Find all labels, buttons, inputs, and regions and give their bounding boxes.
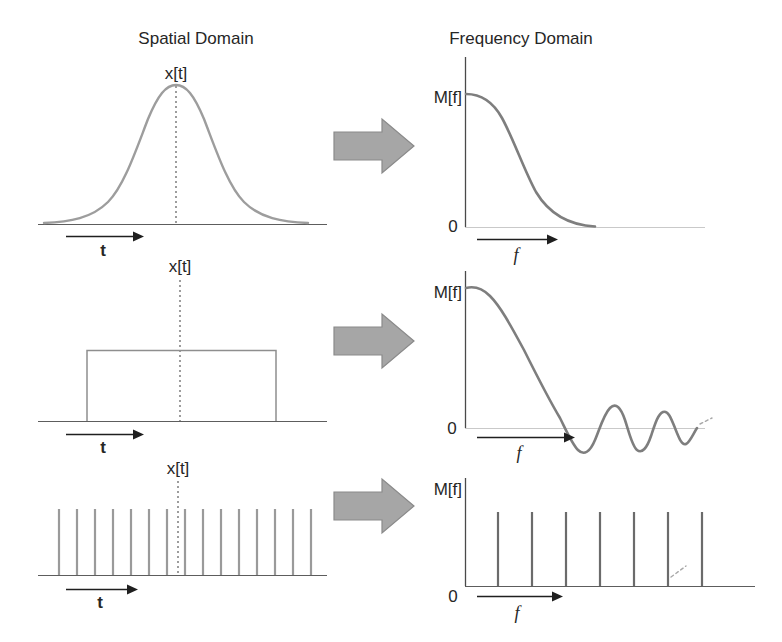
row3-continuation-hint [671,566,686,577]
row2-rect-pulse [87,351,276,422]
row-impulse-frequency-panel: M[f] 0 f [434,478,755,623]
row1-zero-label: 0 [448,217,457,236]
row3-impulse-train [59,509,311,575]
right-arrow-icon [334,479,414,533]
row3-f-label: f [514,603,522,623]
row-impulse-spatial-panel: x[t] t [38,459,327,612]
row2-f-label: f [516,443,524,463]
row2-signal-label: x[t] [169,257,192,276]
row1-t-label: t [100,241,106,260]
row3-t-arrow-head [127,585,138,595]
row2-t-arrow-head [133,430,144,440]
row1-magnitude-label: M[f] [434,88,462,107]
row2-f-arrow-head [564,433,575,443]
row3-signal-label: x[t] [167,459,190,478]
right-arrow-icon [334,314,414,368]
row3-impulse-train-spectrum [498,512,702,586]
row2-t-label: t [100,438,106,457]
fourier-pairs-figure: Spatial Domain Frequency Domain x[t] t M… [0,0,782,642]
row3-zero-label: 0 [448,587,457,606]
row1-t-arrow-head [133,232,144,242]
row1-f-arrow-head [547,235,558,245]
transform-arrow-row-1 [334,119,414,173]
row3-t-label: t [97,593,103,612]
row2-sinc-curve [466,287,697,452]
spatial-domain-title: Spatial Domain [138,29,253,48]
frequency-domain-title: Frequency Domain [449,29,593,48]
row2-zero-label: 0 [447,419,456,438]
row-gaussian-frequency-panel: M[f] 0 f [434,57,705,265]
row-rect-spatial-panel: x[t] t [38,257,327,457]
right-arrow-icon [334,119,414,173]
row3-f-arrow-head [552,592,563,602]
transform-arrow-row-2 [334,314,414,368]
row2-magnitude-label: M[f] [434,283,462,302]
row3-magnitude-label: M[f] [434,480,462,499]
row-rect-frequency-panel: M[f] 0 f [434,271,712,463]
row1-signal-label: x[t] [165,64,188,83]
transform-arrow-row-3 [334,479,414,533]
row1-f-label: f [513,245,521,265]
row-gaussian-spatial-panel: x[t] t [38,64,327,260]
figure-canvas: Spatial Domain Frequency Domain x[t] t M… [0,0,782,642]
row2-continuation-hint [700,418,712,424]
row1-gaussian-spectrum-curve [466,94,595,227]
